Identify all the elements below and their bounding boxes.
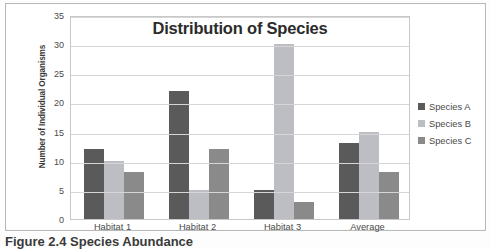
y-axis-tick-30: 30: [38, 40, 64, 50]
x-axis-label-habitat-3: Habitat 3: [264, 222, 301, 232]
legend-label-species-b: Species B: [429, 119, 471, 129]
x-axis-label-habitat-2: Habitat 2: [179, 222, 216, 232]
y-axis-tick-25: 25: [38, 69, 64, 79]
y-axis-tick-15: 15: [38, 128, 64, 138]
legend-item-species-a: Species A: [418, 98, 484, 115]
bar-species-a-average: [339, 143, 359, 219]
gridline-20: [71, 104, 409, 105]
bar-species-a-habitat-2: [169, 91, 189, 219]
bar-species-c-habitat-3: [294, 202, 314, 219]
y-axis-tick-35: 35: [38, 11, 64, 21]
y-axis-tick-0: 0: [38, 215, 64, 225]
bar-species-c-habitat-1: [124, 172, 144, 219]
legend-swatch-species-a: [418, 103, 425, 110]
plot-area: Distribution of Species: [70, 16, 410, 220]
bar-group-average: [326, 17, 411, 219]
gridline-10: [71, 163, 409, 164]
y-axis-tick-10: 10: [38, 157, 64, 167]
gridline-35: [71, 17, 409, 18]
bar-species-b-average: [359, 132, 379, 219]
bar-species-c-habitat-2: [209, 149, 229, 219]
bar-species-a-habitat-1: [84, 149, 104, 219]
bar-group-habitat-1: [71, 17, 156, 219]
gridline-15: [71, 134, 409, 135]
bar-species-a-habitat-3: [254, 190, 274, 219]
figure-caption: Figure 2.4 Species Abundance: [5, 234, 405, 249]
scanned-figure-page: Number of Individual Organisms 051015202…: [0, 0, 491, 249]
bar-group-habitat-2: [156, 17, 241, 219]
bar-species-c-average: [379, 172, 399, 219]
gridline-5: [71, 192, 409, 193]
y-axis-tick-20: 20: [38, 98, 64, 108]
bar-species-b-habitat-1: [104, 161, 124, 219]
gridline-25: [71, 75, 409, 76]
gridline-30: [71, 46, 409, 47]
y-axis-tick-labels: 05101520253035: [38, 16, 64, 220]
x-axis-label-habitat-1: Habitat 1: [94, 222, 131, 232]
legend-label-species-c: Species C: [429, 136, 471, 146]
bars-layer: [71, 17, 409, 219]
y-axis-tick-5: 5: [38, 186, 64, 196]
legend-label-species-a: Species A: [429, 102, 470, 112]
x-axis-label-average: Average: [350, 222, 384, 232]
bar-group-habitat-3: [241, 17, 326, 219]
legend-item-species-c: Species C: [418, 132, 484, 149]
chart-container: Number of Individual Organisms 051015202…: [10, 6, 481, 228]
bar-species-b-habitat-2: [189, 190, 209, 219]
legend-item-species-b: Species B: [418, 115, 484, 132]
legend-swatch-species-b: [418, 120, 425, 127]
legend-swatch-species-c: [418, 137, 425, 144]
chart-legend: Species ASpecies BSpecies C: [418, 98, 484, 149]
